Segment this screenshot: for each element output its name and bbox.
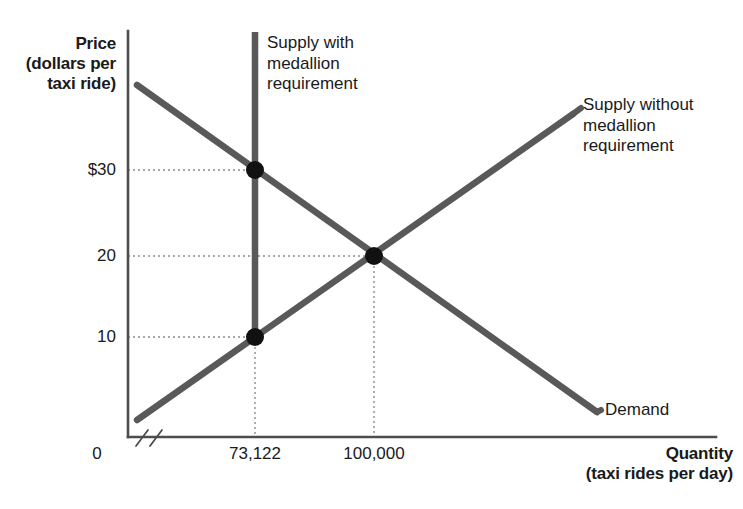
x-tick-label-100000: 100,000	[320, 444, 428, 464]
y-axis-title-line3: taxi ride)	[47, 74, 116, 93]
supply-without-medallion-label: Supply withoutmedallionrequirement	[583, 95, 741, 157]
y-axis-title: Price(dollars pertaxi ride)	[8, 34, 116, 94]
x-axis-title-line1: Quantity	[666, 444, 733, 463]
supply-with-medallion-label-line2: medallion	[267, 54, 340, 73]
axes	[128, 31, 716, 437]
demand-label: Demand	[605, 400, 705, 421]
leader-demand	[597, 410, 601, 412]
dot-supply-price-at-restricted-quantity	[246, 328, 264, 346]
supply-without-medallion-curve	[137, 114, 573, 420]
supply-without-medallion-label-line2: medallion	[583, 116, 656, 135]
y-axis-title-line2: (dollars per	[26, 54, 116, 73]
leader-supply-without-medallion	[573, 108, 581, 114]
supply-without-medallion-label-line3: requirement	[583, 136, 674, 155]
equilibrium-markers	[246, 161, 383, 346]
y-tick-label-20: 20	[56, 246, 116, 266]
supply-demand-chart: Price(dollars pertaxi ride) Quantity(tax…	[0, 0, 743, 509]
supply-without-medallion-label-line1: Supply without	[583, 95, 694, 114]
supply-with-medallion-label-line3: requirement	[267, 74, 358, 93]
supply-with-medallion-label: Supply withmedallionrequirement	[267, 33, 417, 95]
dot-equilibrium-with-medallion	[246, 161, 264, 179]
y-axis-title-line1: Price	[75, 34, 116, 53]
y-tick-label-10: 10	[56, 327, 116, 347]
x-axis-title-line2: (taxi rides per day)	[586, 464, 733, 483]
supply-with-medallion-label-line1: Supply with	[267, 33, 354, 52]
x-axis-title: Quantity(taxi rides per day)	[455, 444, 733, 484]
x-tick-label-origin: 0	[82, 444, 112, 464]
y-tick-label-30: $30	[56, 160, 116, 180]
x-tick-label-73122: 73,122	[205, 444, 305, 464]
demand-curve	[137, 85, 597, 412]
dot-equilibrium-without-medallion	[365, 247, 383, 265]
